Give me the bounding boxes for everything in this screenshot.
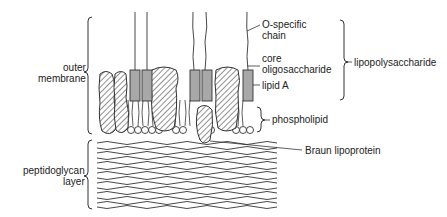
label-line: peptidoglycan <box>23 165 85 176</box>
lipid-a <box>142 70 152 101</box>
label-line: oligosaccharide <box>262 64 332 75</box>
label-line: outer <box>38 62 86 73</box>
core-oligosaccharide-label: core oligosaccharide <box>262 53 332 75</box>
phospholipid-label: phospholipid <box>272 114 328 125</box>
lipid-a <box>202 70 212 101</box>
lps-brace <box>340 20 348 100</box>
label-line: membrane <box>38 73 86 84</box>
label-line: core <box>262 53 332 64</box>
lipid-a-label: lipid A <box>262 80 289 91</box>
label-line: chain <box>262 30 306 41</box>
o-specific-label: O-specific chain <box>262 19 306 41</box>
lipid-a <box>190 70 200 101</box>
membrane-proteins <box>99 67 240 143</box>
peptidoglycan-label: peptidoglycan layer <box>23 165 85 187</box>
outer-membrane-label: outer membrane <box>38 62 86 84</box>
lipid-a <box>243 70 253 101</box>
braun-lipoprotein-label: Braun lipoprotein <box>305 145 381 156</box>
peptidoglycan-brace <box>84 140 92 209</box>
label-line: O-specific <box>262 19 306 30</box>
lipid-a <box>130 70 140 101</box>
label-line: layer <box>23 176 85 187</box>
lipopolysaccharide-label: lipopolysaccharide <box>354 57 436 68</box>
peptidoglycan-strands <box>97 142 277 209</box>
phospholipid-brace <box>257 107 265 132</box>
